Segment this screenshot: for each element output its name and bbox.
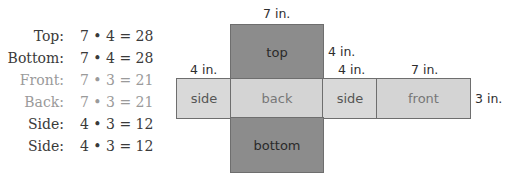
face-front: front [376,78,471,119]
calc-expression: 7 • 3 = 21 [80,94,153,110]
dim-top-height: 4 in. [328,44,355,59]
face-side-right: side [322,78,378,119]
calc-label: Bottom: [8,50,64,66]
calc-label: Front: [20,72,64,88]
calc-row-back: Back: 7 • 3 = 21 [0,94,160,116]
face-back: back [230,78,324,119]
dim-front-width: 7 in. [411,62,438,77]
calc-row-side: Side: 4 • 3 = 12 [0,138,160,160]
face-label: bottom [253,138,300,153]
dim-side-right-width: 4 in. [338,62,365,77]
dim-top-width: 7 in. [263,6,290,21]
face-label: back [262,91,293,106]
face-side-left: side [176,78,232,119]
calc-row-side: Side: 4 • 3 = 12 [0,116,160,138]
calc-row-bottom: Bottom: 7 • 4 = 28 [0,50,160,72]
calc-label: Back: [24,94,64,110]
face-label: side [337,91,364,106]
face-label: top [266,45,287,60]
calc-expression: 7 • 3 = 21 [80,72,153,88]
calc-label: Side: [28,138,64,154]
face-label: side [191,91,218,106]
calc-row-front: Front: 7 • 3 = 21 [0,72,160,94]
calc-expression: 7 • 4 = 28 [80,28,153,44]
face-top: top [230,24,324,80]
calc-expression: 7 • 4 = 28 [80,50,153,66]
face-bottom: bottom [230,117,324,173]
dim-strip-height: 3 in. [475,91,502,106]
calc-expression: 4 • 3 = 12 [80,138,153,154]
calc-label: Side: [28,116,64,132]
face-label: front [408,91,439,106]
calc-label: Top: [34,28,64,44]
dim-side-left-width: 4 in. [190,62,217,77]
calc-row-top: Top: 7 • 4 = 28 [0,28,160,50]
calc-expression: 4 • 3 = 12 [80,116,153,132]
